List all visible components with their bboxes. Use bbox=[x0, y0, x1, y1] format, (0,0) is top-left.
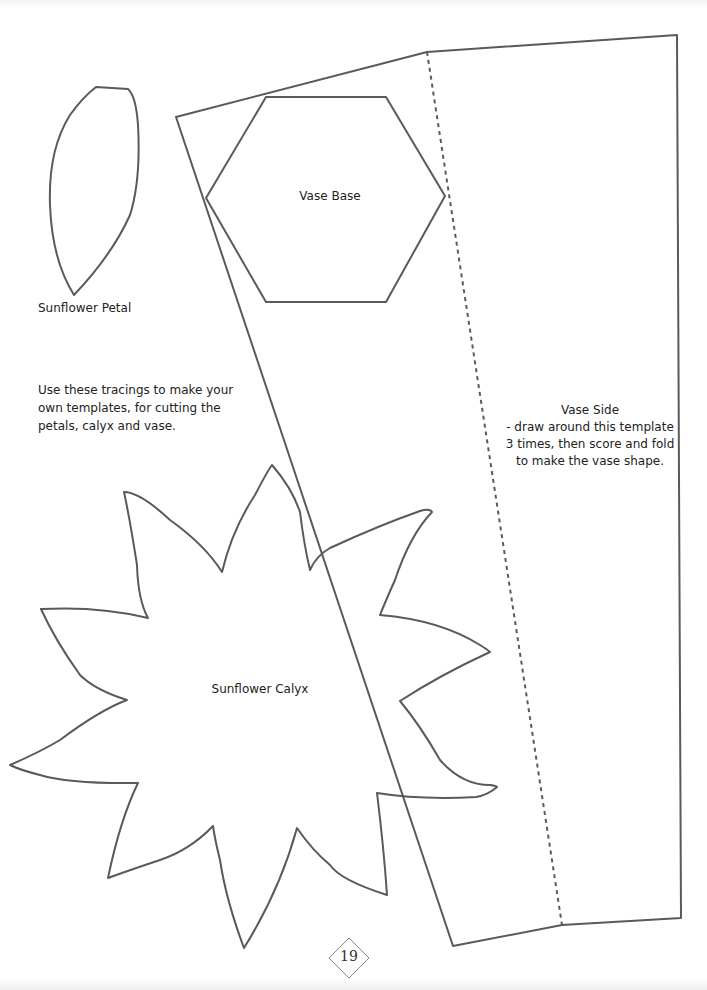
vase-side-line: - draw around this template bbox=[490, 419, 690, 436]
vase-side-outline bbox=[176, 35, 681, 946]
vase-side-text: Vase Side - draw around this template 3 … bbox=[490, 402, 690, 470]
template-drawings bbox=[0, 0, 707, 990]
petal-label: Sunflower Petal bbox=[38, 300, 131, 317]
page-number: 19 bbox=[329, 948, 369, 964]
vase-base-label: Vase Base bbox=[270, 188, 390, 205]
vase-fold-line bbox=[427, 52, 562, 925]
calyx-outline bbox=[10, 465, 497, 948]
instructions-line: Use these tracings to make your bbox=[38, 381, 268, 399]
instructions-text: Use these tracings to make your own temp… bbox=[38, 381, 268, 435]
instructions-line: petals, calyx and vase. bbox=[38, 417, 268, 435]
vase-side-title: Vase Side bbox=[490, 402, 690, 419]
petal-outline bbox=[50, 87, 139, 295]
vase-side-line: to make the vase shape. bbox=[490, 453, 690, 470]
calyx-label: Sunflower Calyx bbox=[190, 681, 330, 698]
vase-side-line: 3 times, then score and fold bbox=[490, 436, 690, 453]
instructions-line: own templates, for cutting the bbox=[38, 399, 268, 417]
